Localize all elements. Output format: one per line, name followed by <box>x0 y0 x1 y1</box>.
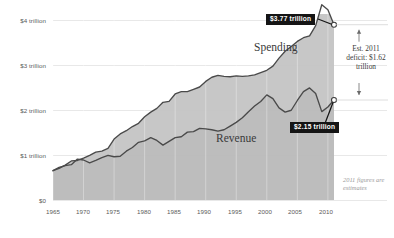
x-tick-1990: 1990 <box>189 208 219 215</box>
series-area-fills <box>53 5 334 200</box>
chart-plot-svg <box>0 0 394 238</box>
y-tick-4-trillion: $4 trillion <box>2 17 46 24</box>
x-tick-2010: 2010 <box>311 208 341 215</box>
x-tick-1965: 1965 <box>38 208 68 215</box>
y-tick-2-trillion: $2 trillion <box>2 107 46 114</box>
chart-container: $4 trillion $3 trillion $2 trillion $1 t… <box>0 0 394 238</box>
x-tick-2000: 2000 <box>250 208 280 215</box>
x-tick-1975: 1975 <box>98 208 128 215</box>
series-label-revenue: Revenue <box>216 132 256 144</box>
x-tick-1985: 1985 <box>159 208 189 215</box>
callout-spending-value: $3.77 trillion <box>266 14 315 25</box>
x-tick-1995: 1995 <box>220 208 250 215</box>
deficit-annotation: Est. 2011 deficit: $1.62 trillion <box>342 44 390 71</box>
spending-endpoint-marker <box>332 22 337 27</box>
estimates-footnote: 2011 figures are estimates <box>343 176 389 193</box>
x-tick-1970: 1970 <box>68 208 98 215</box>
x-tick-2005: 2005 <box>280 208 310 215</box>
series-label-spending: Spending <box>254 41 297 53</box>
x-tick-1980: 1980 <box>129 208 159 215</box>
y-tick-1-trillion: $1 trillion <box>2 152 46 159</box>
callout-revenue-value: $2.15 trillion <box>290 122 339 133</box>
y-tick-0: $0 <box>2 197 46 204</box>
y-tick-3-trillion: $3 trillion <box>2 62 46 69</box>
revenue-endpoint-marker <box>332 98 337 103</box>
